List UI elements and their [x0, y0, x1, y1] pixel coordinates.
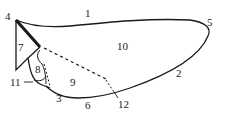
label-7: 7	[18, 42, 24, 53]
label-6: 6	[85, 100, 91, 111]
label-1: 1	[85, 8, 91, 19]
label-11: 11	[10, 77, 21, 88]
label-9: 9	[70, 77, 76, 88]
label-10: 10	[117, 41, 128, 52]
outline-drawing	[0, 0, 225, 121]
diagram-canvas: 1 2 3 4 5 6 7 8 9 10 11 12	[0, 0, 225, 121]
label-3: 3	[56, 93, 62, 104]
label-4: 4	[5, 11, 11, 22]
label-5: 5	[207, 17, 213, 28]
label-2: 2	[176, 68, 182, 79]
dashed-12	[106, 80, 114, 92]
arc-8	[34, 76, 46, 81]
label-12: 12	[118, 99, 129, 110]
label-8: 8	[35, 64, 41, 75]
dashed-diagonal	[44, 48, 108, 80]
